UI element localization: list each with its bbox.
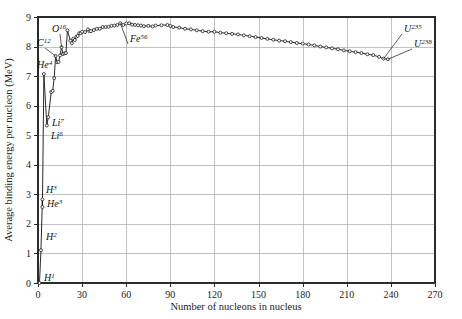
binding-energy-chart: 0306090120150180210240270 0123456789 H1H… — [0, 0, 462, 319]
annotation-O16: O16 — [52, 23, 67, 35]
data-point — [295, 42, 298, 45]
data-point — [59, 54, 62, 57]
data-point — [331, 47, 334, 50]
data-point — [47, 116, 50, 119]
data-point — [113, 24, 116, 27]
data-point — [45, 124, 48, 127]
y-tick-label: 0 — [26, 278, 31, 289]
data-point — [160, 24, 163, 27]
data-point — [131, 23, 134, 26]
x-tick-label: 180 — [295, 289, 310, 300]
leader-line-U235 — [384, 34, 402, 59]
data-point — [166, 23, 169, 26]
data-point — [254, 36, 257, 39]
annotation-H3: H3 — [45, 184, 57, 196]
data-point — [147, 24, 150, 27]
data-point — [213, 30, 216, 33]
x-axis-title: Number of nucleons in nucleus — [170, 301, 301, 312]
leader-line-C12 — [45, 48, 56, 56]
annotation-Li7: Li7 — [51, 117, 64, 129]
x-tick-label: 240 — [383, 289, 398, 300]
data-point — [107, 25, 110, 28]
data-point — [360, 52, 363, 55]
x-tick-label: 120 — [207, 289, 222, 300]
data-point — [201, 30, 204, 33]
data-point — [154, 24, 157, 27]
data-point — [342, 49, 345, 52]
data-point — [84, 31, 87, 34]
data-point — [98, 27, 101, 30]
annotation-He3: He3 — [46, 198, 63, 210]
data-point — [89, 30, 92, 33]
data-point — [70, 42, 73, 45]
data-point — [136, 24, 139, 27]
data-point — [307, 43, 310, 46]
data-point — [172, 26, 175, 29]
annotation-Fe56: Fe56 — [129, 33, 148, 45]
data-point — [278, 39, 281, 42]
data-point — [66, 29, 69, 32]
y-tick-label: 4 — [26, 159, 31, 170]
annotation-He4: He4 — [36, 59, 53, 71]
x-axis-tick-labels: 0306090120150180210240270 — [36, 289, 443, 300]
plot-frame — [38, 17, 435, 283]
data-point — [110, 24, 113, 27]
data-point — [116, 23, 119, 26]
plot-area-border — [38, 17, 435, 283]
y-axis-title: Average binding energy per nucleon (MeV) — [3, 58, 15, 242]
y-tick-label: 9 — [26, 12, 31, 23]
data-point — [242, 34, 245, 37]
data-point — [231, 32, 234, 35]
data-point — [42, 73, 45, 76]
data-point — [41, 206, 44, 209]
data-point — [53, 77, 56, 80]
x-tick-label: 90 — [165, 289, 175, 300]
data-point — [366, 53, 369, 56]
data-point — [134, 23, 137, 26]
x-tick-label: 210 — [339, 289, 354, 300]
data-point — [319, 45, 322, 48]
annotation-H2: H2 — [45, 231, 57, 243]
data-point — [64, 52, 67, 55]
x-tick-label: 270 — [428, 289, 443, 300]
data-point — [225, 32, 228, 35]
binding-energy-figure: 0306090120150180210240270 0123456789 H1H… — [0, 0, 462, 319]
leader-line-O16 — [60, 34, 62, 47]
data-point-markers — [38, 22, 389, 285]
nuclide-annotations: H1H2He3H3Li6Li7He4C12O16Fe56U235U238 — [36, 23, 432, 284]
data-point — [248, 35, 251, 38]
data-point — [195, 29, 198, 32]
y-tick-label: 3 — [26, 189, 31, 200]
annotation-Li6: Li6 — [50, 130, 63, 142]
data-point — [101, 26, 104, 29]
y-tick-label: 2 — [26, 218, 31, 229]
x-tick-label: 30 — [77, 289, 87, 300]
data-point — [189, 28, 192, 31]
annotation-C12: C12 — [37, 37, 51, 49]
data-point — [289, 41, 292, 44]
data-point — [260, 36, 263, 39]
data-point — [73, 39, 76, 42]
data-point — [184, 27, 187, 30]
data-point — [325, 46, 328, 49]
data-point — [51, 89, 54, 92]
data-point — [57, 60, 60, 63]
y-tick-label: 6 — [26, 100, 31, 111]
data-point — [95, 27, 98, 30]
data-point — [92, 29, 95, 32]
data-point — [41, 198, 44, 201]
data-point — [301, 42, 304, 45]
data-point — [104, 26, 107, 29]
data-point — [336, 48, 339, 51]
annotation-H1: H1 — [43, 272, 55, 284]
y-tick-label: 7 — [26, 71, 31, 82]
data-point — [178, 26, 181, 29]
data-point — [39, 249, 42, 252]
data-point — [142, 25, 145, 28]
y-axis-tick-labels: 0123456789 — [26, 12, 31, 289]
data-point — [354, 51, 357, 54]
data-point — [139, 24, 142, 27]
data-point — [284, 40, 287, 43]
data-point — [122, 23, 125, 26]
data-point — [169, 24, 172, 27]
